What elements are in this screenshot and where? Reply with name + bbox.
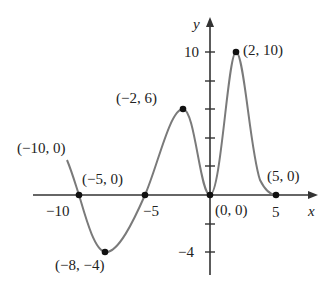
point-neg10-0: [76, 192, 83, 199]
function-graph: y x −10 −5 5 10 −4 (−10, 0) (−5, 0) (−8,…: [0, 0, 324, 299]
point-2-10: [233, 49, 240, 56]
function-curve: [67, 52, 276, 252]
label-point-0-0: (0, 0): [215, 202, 248, 219]
label-point-neg8-neg4: (−8, −4): [55, 257, 104, 274]
labeled-points: [76, 49, 280, 256]
label-point-5-0: (5, 0): [267, 168, 300, 185]
point-5-0: [273, 192, 280, 199]
y-axis-arrow-icon: [206, 17, 214, 27]
point-0-0: [207, 192, 214, 199]
label-point-2-10: (2, 10): [243, 42, 283, 59]
label-point-neg5-0: (−5, 0): [82, 171, 123, 188]
tick-label-x-neg10: −10: [46, 203, 69, 219]
point-neg8-neg4: [102, 249, 109, 256]
label-point-neg10-0: (−10, 0): [17, 140, 65, 157]
point-neg5-0: [142, 192, 149, 199]
axes: [33, 24, 312, 275]
tick-label-x-neg5: −5: [143, 203, 159, 219]
point-neg2-6: [180, 106, 187, 113]
x-axis-label: x: [307, 203, 315, 219]
tick-label-y-10: 10: [184, 44, 199, 60]
y-axis-label: y: [191, 16, 200, 32]
tick-label-y-neg4: −4: [178, 244, 194, 260]
x-axis-arrow-icon: [308, 191, 318, 199]
label-point-neg2-6: (−2, 6): [116, 90, 157, 107]
tick-label-x-5: 5: [272, 204, 280, 220]
